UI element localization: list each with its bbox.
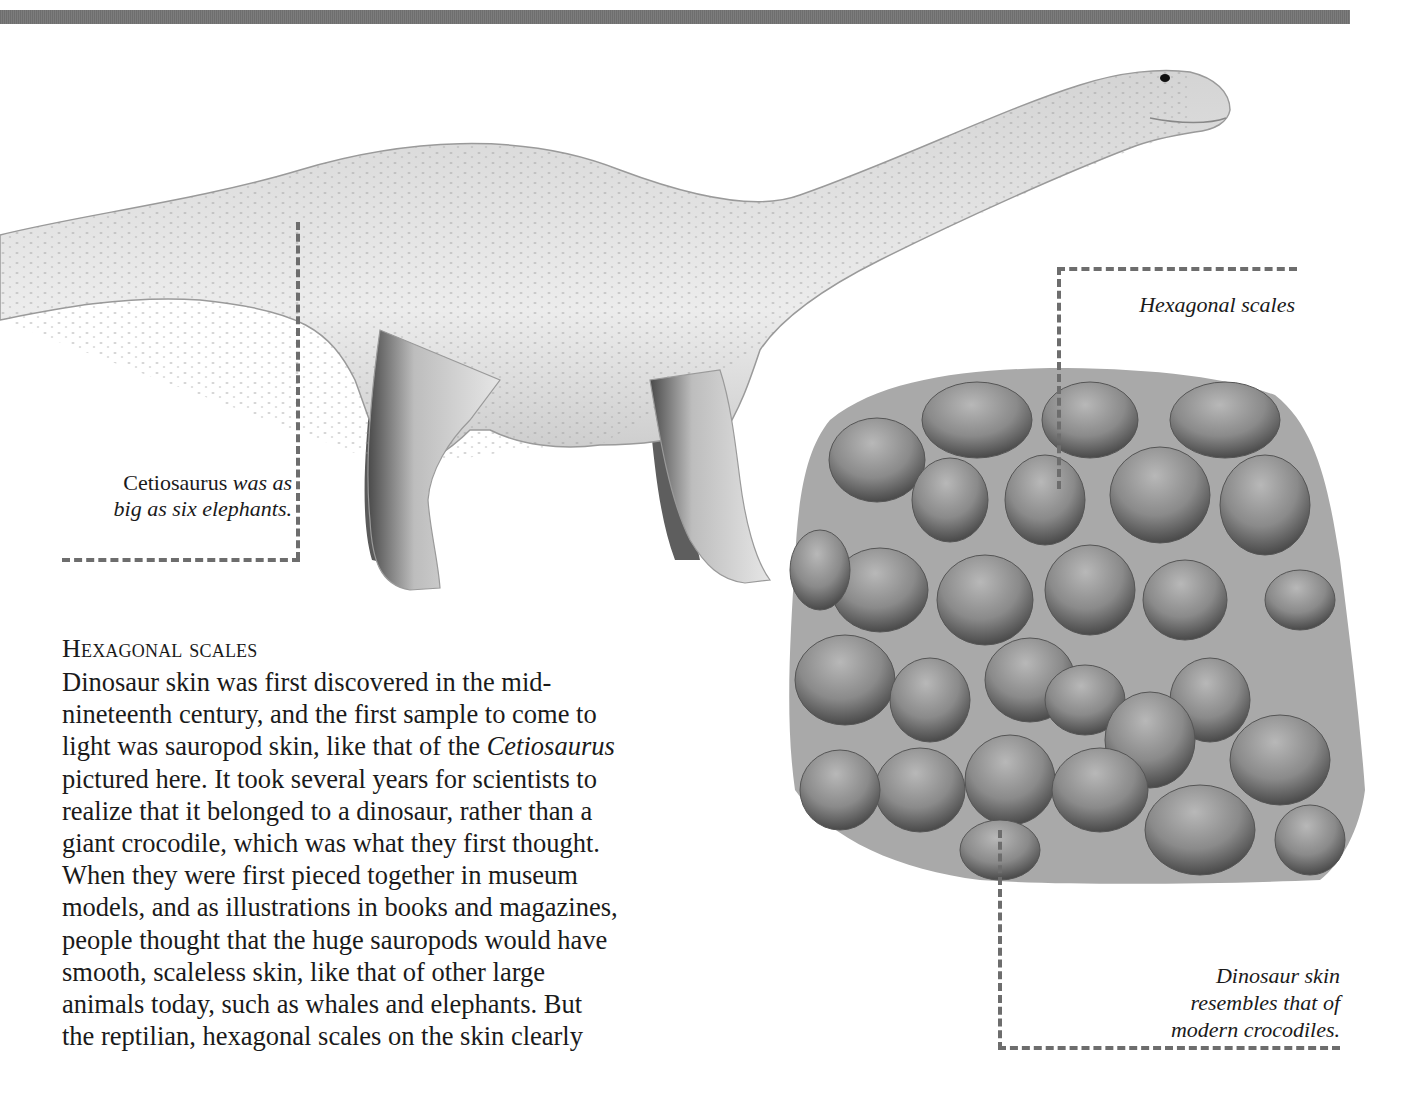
body-line: giant crocodile, which was what they fir… — [62, 827, 762, 859]
body-line: nineteenth century, and the first sample… — [62, 698, 762, 730]
body-line: realize that it belonged to a dinosaur, … — [62, 795, 762, 827]
skin-leader-horizontal — [998, 1046, 1340, 1050]
body-line: models, and as illustrations in books an… — [62, 891, 762, 923]
dinosaur-skin-caption: Dinosaur skin resembles that of modern c… — [1090, 962, 1340, 1043]
cetiosaurus-leader-vertical — [296, 222, 300, 560]
skin-caption-line2: resembles that of — [1090, 989, 1340, 1016]
body-line: smooth, scaleless skin, like that of oth… — [62, 956, 762, 988]
skin-caption-line3: modern crocodiles. — [1090, 1016, 1340, 1043]
body-line: the reptilian, hexagonal scales on the s… — [62, 1020, 762, 1052]
cetiosaurus-leader-horizontal — [62, 558, 300, 562]
cetiosaurus-name: Cetiosaurus — [123, 470, 227, 495]
body-line: light was sauropod skin, like that of th… — [62, 730, 762, 762]
body-line: people thought that the huge sauropods w… — [62, 924, 762, 956]
body-line: Dinosaur skin was first discovered in th… — [62, 666, 762, 698]
cetiosaurus-caption: Cetiosaurus was as big as six elephants. — [62, 470, 292, 522]
body-line: animals today, such as whales and elepha… — [62, 988, 762, 1020]
section-heading: Hexagonal scales — [62, 634, 257, 664]
body-line-text: light was sauropod skin, like that of th… — [62, 731, 487, 761]
body-line: pictured here. It took several years for… — [62, 763, 762, 795]
cetiosaurus-caption-rest: was as — [227, 470, 292, 495]
scaly-skin-illustration — [789, 368, 1365, 884]
skin-leader-vertical — [998, 830, 1002, 1050]
hexagonal-scales-leader-horizontal — [1057, 267, 1297, 271]
article-body: Dinosaur skin was first discovered in th… — [62, 666, 762, 1052]
body-line: When they were first pieced together in … — [62, 859, 762, 891]
cetiosaurus-caption-line2: big as six elephants. — [114, 496, 292, 521]
hexagonal-scales-caption: Hexagonal scales — [1085, 292, 1295, 318]
hexagonal-scales-leader-vertical — [1057, 267, 1061, 489]
skin-caption-line1: Dinosaur skin — [1090, 962, 1340, 989]
italic-term: Cetiosaurus — [487, 731, 615, 761]
